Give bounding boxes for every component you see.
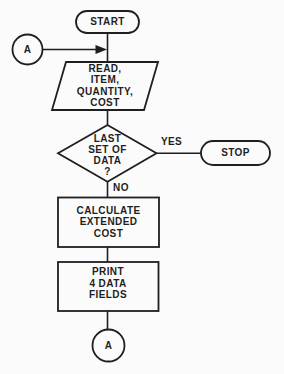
flowchart-canvas: START A READ, ITEM, QUANTITY, COST LAST … xyxy=(0,0,284,374)
print-node-label: PRINT 4 DATA FIELDS xyxy=(58,262,158,311)
calculate-node-line: COST xyxy=(94,228,123,239)
read-node-line: COST xyxy=(90,97,119,108)
stop-node-label: STOP xyxy=(201,141,270,165)
calculate-node-label: CALCULATE EXTENDED COST xyxy=(58,197,159,247)
yes-branch-label: YES xyxy=(159,137,184,147)
decision-node-line: ? xyxy=(104,167,111,178)
start-node-label: START xyxy=(76,11,139,33)
print-node-line: 4 DATA xyxy=(89,278,126,289)
decision-node-label: LAST SET OF DATA ? xyxy=(58,134,157,178)
read-node-line: READ, xyxy=(88,63,121,74)
read-node-line: QUANTITY, xyxy=(77,86,133,97)
calculate-node-line: EXTENDED xyxy=(80,216,138,227)
no-branch-label: NO xyxy=(109,183,133,193)
print-node-line: FIELDS xyxy=(89,289,127,300)
connector-a-top-label: A xyxy=(12,34,43,65)
connector-a-bottom-label: A xyxy=(92,329,125,362)
print-node-line: PRINT xyxy=(92,266,124,277)
read-node-label: READ, ITEM, QUANTITY, COST xyxy=(52,63,158,108)
read-node-line: ITEM, xyxy=(91,74,120,85)
calculate-node-line: CALCULATE xyxy=(77,205,141,216)
arrowhead-right-icon xyxy=(96,45,108,54)
